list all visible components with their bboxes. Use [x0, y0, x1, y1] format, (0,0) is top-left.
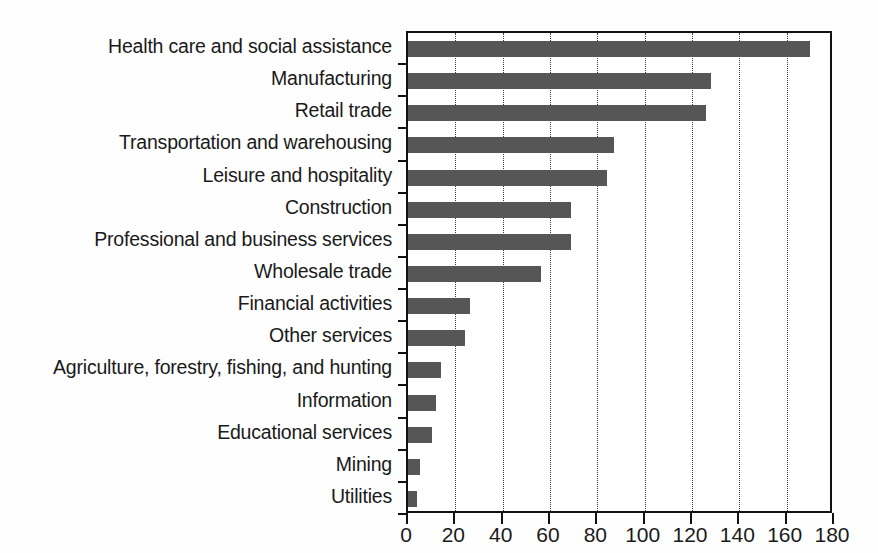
plot-inner — [408, 33, 830, 511]
x-axis-tick-label: 180 — [814, 524, 849, 545]
category-label: Professional and business services — [94, 230, 392, 250]
category-label: Information — [297, 391, 392, 411]
bar — [408, 491, 417, 507]
category-label: Retail trade — [295, 101, 392, 121]
x-axis-tick-label: 80 — [584, 524, 607, 545]
x-axis-tick-label: 120 — [672, 524, 707, 545]
category-label: Mining — [336, 455, 392, 475]
bar — [408, 427, 432, 443]
plot-area — [406, 31, 832, 513]
bar — [408, 266, 541, 282]
bar — [408, 330, 465, 346]
category-label: Construction — [285, 198, 392, 218]
bar — [408, 362, 441, 378]
category-label: Manufacturing — [271, 69, 392, 89]
x-axis-tick-label: 140 — [720, 524, 755, 545]
x-axis-tick-label: 60 — [536, 524, 559, 545]
bar-chart: Health care and social assistanceManufac… — [0, 0, 878, 553]
bar — [408, 202, 571, 218]
category-axis-labels: Health care and social assistanceManufac… — [0, 31, 400, 513]
category-label: Health care and social assistance — [108, 37, 392, 57]
x-axis-tick-label: 20 — [442, 524, 465, 545]
bar — [408, 234, 571, 250]
category-label: Wholesale trade — [254, 262, 392, 282]
x-axis-tick-label: 40 — [489, 524, 512, 545]
category-label: Utilities — [331, 487, 392, 507]
category-label: Other services — [269, 326, 392, 346]
x-axis-tick-label: 0 — [400, 524, 412, 545]
category-label: Leisure and hospitality — [203, 166, 392, 186]
bar — [408, 170, 607, 186]
bar — [408, 41, 810, 57]
category-label: Agriculture, forestry, fishing, and hunt… — [53, 358, 392, 378]
bar — [408, 137, 614, 153]
category-label: Transportation and warehousing — [119, 133, 392, 153]
gridline — [787, 33, 789, 511]
category-label: Educational services — [217, 423, 392, 443]
x-axis-tick-label: 160 — [767, 524, 802, 545]
bar — [408, 298, 470, 314]
bar — [408, 73, 711, 89]
category-label: Financial activities — [238, 294, 392, 314]
x-axis-tick-label: 100 — [625, 524, 660, 545]
bar — [408, 105, 706, 121]
bar — [408, 395, 436, 411]
x-axis-tick-labels: 020406080100120140160180 — [406, 524, 832, 553]
bar — [408, 459, 420, 475]
gridline — [739, 33, 741, 511]
